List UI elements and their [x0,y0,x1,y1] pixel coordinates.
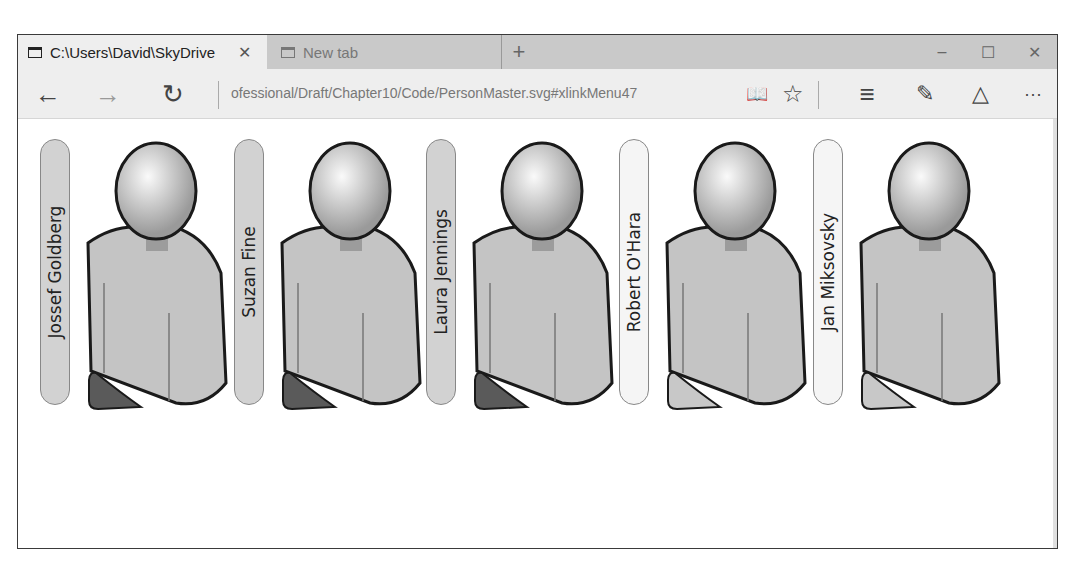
share-icon[interactable]: △ [963,69,997,119]
forward-button[interactable]: → [88,69,128,119]
refresh-button[interactable]: ↻ [153,69,193,119]
reading-view-icon[interactable]: 📖 [742,69,772,119]
person-card[interactable]: Laura Jennings [426,139,616,419]
tab-new-tab[interactable]: New tab [271,35,499,69]
person-card[interactable]: Robert O'Hara [619,139,809,419]
person-card[interactable]: Jossef Goldberg [40,139,230,419]
scrollbar[interactable] [1053,119,1057,548]
minimize-button[interactable]: – [919,35,965,69]
address-bar[interactable]: ofessional/Draft/Chapter10/Code/PersonMa… [231,85,711,101]
separator [818,81,819,109]
separator [218,81,219,109]
person-icon [849,133,1009,413]
more-icon[interactable]: ··· [1016,69,1050,119]
close-icon[interactable]: ✕ [238,43,251,62]
name-label: Jossef Goldberg [40,139,70,405]
name-label: Jan Miksovsky [813,139,843,405]
person-card[interactable]: Suzan Fine [234,139,424,419]
person-icon [655,133,815,413]
hub-icon[interactable]: ≡ [850,69,884,119]
tab-bar: C:\Users\David\SkyDrive ✕ New tab + – ☐ … [18,35,1057,69]
page-icon [28,47,42,58]
person-icon [76,133,236,413]
web-note-icon[interactable]: ✎ [908,69,942,119]
person-card[interactable]: Jan Miksovsky [813,139,1003,419]
person-icon [462,133,622,413]
person-icon [270,133,430,413]
name-label: Suzan Fine [234,139,264,405]
browser-window: C:\Users\David\SkyDrive ✕ New tab + – ☐ … [17,34,1058,549]
name-label: Robert O'Hara [619,139,649,405]
new-tab-button[interactable]: + [501,35,536,69]
page-icon [281,47,295,58]
close-window-button[interactable]: ✕ [1011,35,1057,69]
maximize-button[interactable]: ☐ [965,35,1011,69]
tab-active[interactable]: C:\Users\David\SkyDrive ✕ [18,35,267,69]
navigation-bar: ← → ↻ ofessional/Draft/Chapter10/Code/Pe… [18,69,1057,119]
tab-title: C:\Users\David\SkyDrive [50,44,232,61]
favorite-star-icon[interactable]: ☆ [778,69,808,119]
tab-title: New tab [303,44,485,61]
name-label: Laura Jennings [426,139,456,405]
back-button[interactable]: ← [28,69,68,119]
